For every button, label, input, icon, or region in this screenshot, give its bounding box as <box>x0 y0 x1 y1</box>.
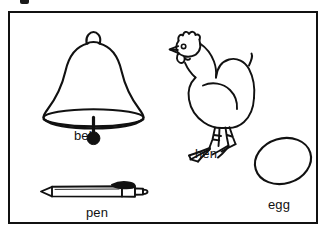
figure-label-pen: pen <box>86 206 108 219</box>
figure-label-egg: egg <box>268 198 290 211</box>
figure-egg: egg <box>250 128 320 223</box>
figure-label-hen: hen <box>195 147 217 160</box>
figure-label-bell: bell <box>74 129 95 142</box>
figure-bell: bell <box>30 25 154 153</box>
illustration-panel: bell <box>0 0 324 231</box>
picture-frame-border: bell <box>8 11 318 224</box>
cropped-glyph-artifact <box>20 0 29 4</box>
figure-pen: pen <box>38 173 158 223</box>
